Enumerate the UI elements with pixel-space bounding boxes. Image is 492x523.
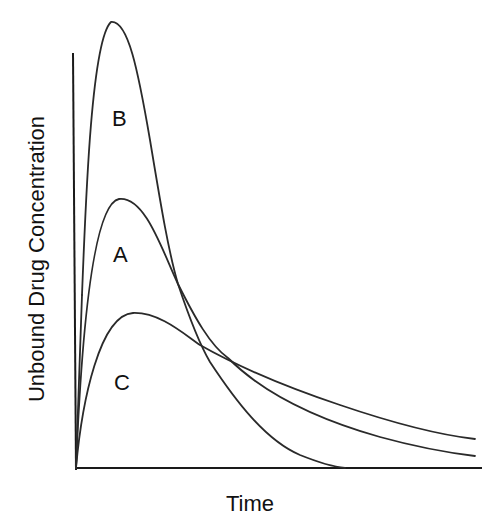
y-axis-line: [73, 53, 76, 470]
x-axis-title: Time: [226, 491, 274, 516]
curve-c-label: C: [114, 370, 130, 395]
y-axis-title: Unbound Drug Concentration: [24, 116, 49, 402]
curve-c: [76, 313, 475, 468]
chart-canvas: B A C Unbound Drug Concentration Time: [0, 0, 492, 523]
curve-b-label: B: [112, 106, 127, 131]
curve-a-label: A: [113, 242, 128, 267]
